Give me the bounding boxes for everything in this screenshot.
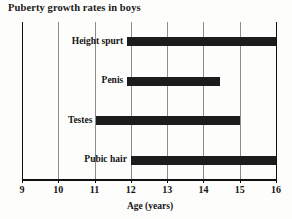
bar-row: Testes — [22, 101, 277, 141]
x-axis-tick-label: 12 — [119, 184, 143, 195]
bar — [131, 156, 276, 165]
bar-category-label: Penis — [3, 75, 123, 85]
x-axis-tick-label: 16 — [264, 184, 288, 195]
chart-title: Puberty growth rates in boys — [8, 2, 141, 13]
chart-figure: Puberty growth rates in boys Height spur… — [0, 0, 292, 219]
x-axis-tick-label: 9 — [10, 184, 34, 195]
bar-category-label: Pubic hair — [7, 154, 127, 164]
x-axis-tick-label: 15 — [228, 184, 252, 195]
plot-area: Height spurtPenisTestesPubic hair — [22, 22, 277, 180]
x-axis-tick-label: 10 — [46, 184, 70, 195]
x-axis-tick-label: 11 — [83, 184, 107, 195]
x-axis-tick-label: 14 — [191, 184, 215, 195]
bar-category-label: Height spurt — [3, 36, 123, 46]
x-axis-tick-label: 13 — [155, 184, 179, 195]
x-axis-title: Age (years) — [4, 201, 292, 211]
bar — [127, 77, 220, 86]
bar — [127, 37, 276, 46]
bar-row: Height spurt — [22, 22, 277, 62]
bar-category-label: Testes — [0, 115, 92, 125]
bar-row: Penis — [22, 62, 277, 102]
bar — [96, 116, 239, 125]
bar-row: Pubic hair — [22, 141, 277, 181]
